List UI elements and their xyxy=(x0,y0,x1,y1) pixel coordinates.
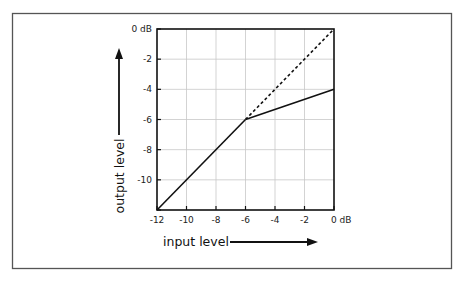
y-tick-label: -6 xyxy=(143,115,152,125)
x-tick-label: -6 xyxy=(241,215,250,225)
outer-frame xyxy=(13,14,452,269)
y-tick-label: -8 xyxy=(143,145,152,155)
x-tick-label: -12 xyxy=(150,215,165,225)
x-tick-label: -8 xyxy=(212,215,221,225)
y-tick-label: -2 xyxy=(143,54,152,64)
x-tick-label: 0 dB xyxy=(331,215,351,225)
y-tick-label: -10 xyxy=(137,175,152,185)
compressor-transfer-diagram: -12-10-8-6-4-20 dB -10-8-6-4-20 dB outpu… xyxy=(0,0,464,281)
x-tick-label: -4 xyxy=(271,215,280,225)
y-axis-title: output level xyxy=(112,139,127,214)
x-axis-title: input level xyxy=(163,234,229,249)
y-tick-label: -4 xyxy=(143,84,152,94)
x-tick-label: -10 xyxy=(179,215,194,225)
y-tick-label: 0 dB xyxy=(132,24,152,34)
x-tick-label: -2 xyxy=(300,215,309,225)
